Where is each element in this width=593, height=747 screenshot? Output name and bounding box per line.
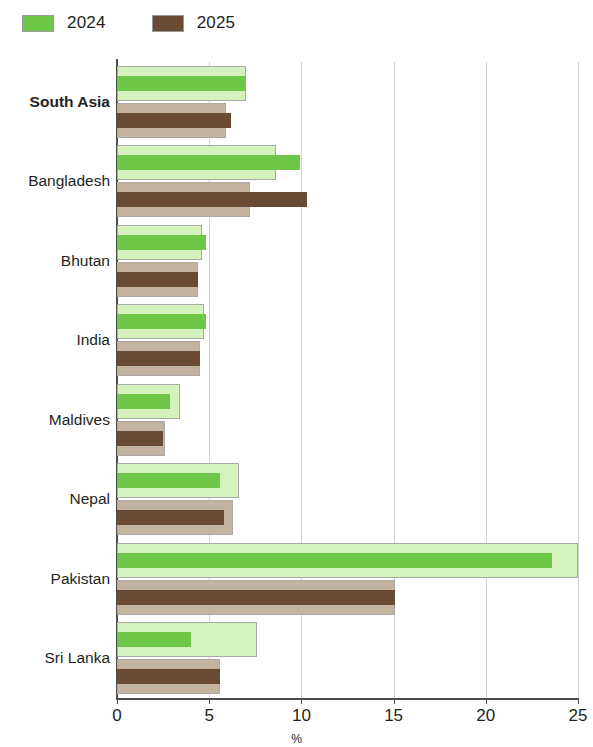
legend-swatch-2025 — [152, 15, 184, 32]
bar-bangladesh-2025-inner — [117, 192, 307, 207]
bar-pakistan-2024-inner — [117, 553, 552, 568]
bar-bhutan-2025-inner — [117, 272, 198, 287]
gridline-25 — [578, 62, 579, 698]
bar-south-asia-2025-inner — [117, 113, 231, 128]
x-tick-mark-0 — [117, 698, 118, 704]
y-axis-label-pakistan: Pakistan — [4, 570, 110, 588]
x-tick-label-15: 15 — [384, 706, 403, 726]
x-tick-label-0: 0 — [112, 706, 121, 726]
y-axis-label-south-asia: South Asia — [4, 93, 110, 111]
bar-india-2024-inner — [117, 314, 206, 329]
bar-nepal-2025-inner — [117, 510, 224, 525]
x-tick-label-10: 10 — [292, 706, 311, 726]
legend-label-2024: 2024 — [67, 13, 106, 33]
gridline-20 — [486, 62, 487, 698]
bar-maldives-2024-inner — [117, 394, 170, 409]
x-axis-line — [116, 698, 579, 700]
bar-pakistan-2025-inner — [117, 590, 395, 605]
x-tick-label-20: 20 — [476, 706, 495, 726]
bar-maldives-2025-inner — [117, 431, 163, 446]
legend-label-2025: 2025 — [197, 13, 236, 33]
y-axis-label-nepal: Nepal — [4, 490, 110, 508]
bar-sri-lanka-2024-inner — [117, 632, 191, 647]
legend-2025[interactable]: 2025 — [152, 13, 236, 33]
x-tick-label-5: 5 — [204, 706, 213, 726]
y-axis-label-bangladesh: Bangladesh — [4, 172, 110, 190]
x-tick-mark-20 — [486, 698, 487, 704]
bar-sri-lanka-2025-inner — [117, 669, 220, 684]
x-tick-mark-25 — [578, 698, 579, 704]
bar-india-2025-inner — [117, 351, 200, 366]
y-axis-label-india: India — [4, 331, 110, 349]
x-tick-mark-10 — [301, 698, 302, 704]
bar-nepal-2024-inner — [117, 473, 220, 488]
y-axis-label-maldives: Maldives — [4, 411, 110, 429]
bar-south-asia-2024-inner — [117, 76, 246, 91]
x-tick-label-25: 25 — [569, 706, 588, 726]
bar-bangladesh-2024-inner — [117, 155, 300, 170]
legend-2024[interactable]: 2024 — [22, 13, 106, 33]
plot-area — [117, 62, 578, 698]
chart-legend: 20242025 — [0, 0, 593, 46]
chart-area: South AsiaBangladeshBhutanIndiaMaldivesN… — [0, 46, 593, 747]
y-axis-label-bhutan: Bhutan — [4, 252, 110, 270]
y-axis-category-labels: South AsiaBangladeshBhutanIndiaMaldivesN… — [0, 62, 110, 698]
bar-bhutan-2024-inner — [117, 235, 206, 250]
y-axis-label-sri-lanka: Sri Lanka — [4, 649, 110, 667]
x-tick-mark-5 — [209, 698, 210, 704]
legend-swatch-2024 — [22, 15, 54, 32]
x-tick-mark-15 — [394, 698, 395, 704]
x-axis-title: % — [0, 732, 593, 746]
